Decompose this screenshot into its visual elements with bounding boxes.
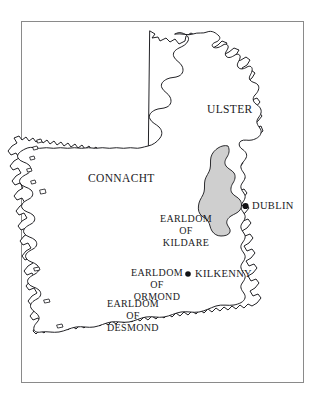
southwest-island-3 [57,324,63,328]
earldom-kildare-line-2: OF [155,225,217,237]
earldom-label-desmond: EARLDOM OF DESMOND [100,298,166,335]
map-figure: ULSTER CONNACHT DUBLIN KILKENNY EARLDOM … [0,0,325,404]
earldom-label-kildare: EARLDOM OF KILDARE [155,213,217,250]
western-island-6 [40,189,46,194]
southwest-island-1 [34,267,40,271]
city-label-dublin: DUBLIN [252,200,294,212]
earldom-desmond-line-3: DESMOND [100,322,166,334]
western-island-2 [33,146,38,150]
city-label-kilkenny: KILKENNY [195,268,252,280]
earldom-ormond-line-2: OF [126,279,188,291]
southwest-island-2 [44,299,50,303]
western-island-5 [31,180,36,184]
province-label-ulster: ULSTER [207,103,253,116]
earldom-ormond-line-1: EARLDOM [126,267,188,279]
earldom-kildare-line-3: KILDARE [155,237,217,249]
dublin-city-marker [242,203,248,209]
earldom-desmond-line-1: EARLDOM [100,298,166,310]
western-island-3 [30,156,35,160]
province-label-connacht: CONNACHT [88,172,155,185]
western-island-1 [37,139,42,143]
western-island-4 [27,168,32,172]
earldom-desmond-line-2: OF [100,310,166,322]
earldom-kildare-line-1: EARLDOM [155,213,217,225]
